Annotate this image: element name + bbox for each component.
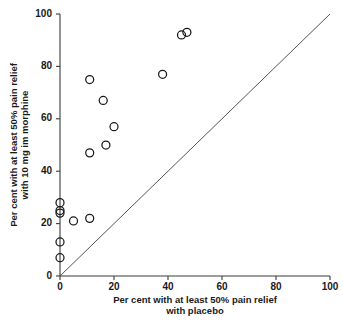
y-axis-label-line2: with 10 mg im morphine [19,91,30,201]
data-point [86,149,94,157]
y-tick-label-80: 80 [41,60,53,71]
y-tick-label-20: 20 [41,217,53,228]
y-tick-label-40: 40 [41,165,53,176]
data-point [159,70,167,78]
x-tick-label-60: 60 [216,281,228,292]
x-tick-label-80: 80 [270,281,282,292]
y-axis-label-line1: Per cent with at least 50% pain relief [8,62,19,227]
data-point [86,76,94,84]
data-point [86,214,94,222]
x-tick-label-20: 20 [108,281,120,292]
data-point [99,96,107,104]
y-tick-label-0: 0 [46,270,52,281]
x-axis-label-line1: Per cent with at least 50% pain relief [113,294,278,305]
y-tick-label-100: 100 [35,8,52,19]
x-tick-label-100: 100 [322,281,339,292]
y-tick-label-60: 60 [41,112,53,123]
x-axis-label-line2: with placebo [165,305,224,316]
data-point [102,141,110,149]
line-of-equality [60,14,330,276]
data-point-group [56,28,191,261]
x-tick-label-40: 40 [162,281,174,292]
scatter-plot-figure: 020406080100020406080100Per cent with at… [0,0,343,329]
data-point [70,217,78,225]
data-point [110,123,118,131]
x-tick-label-0: 0 [57,281,63,292]
plot-canvas: 020406080100020406080100Per cent with at… [0,0,343,329]
